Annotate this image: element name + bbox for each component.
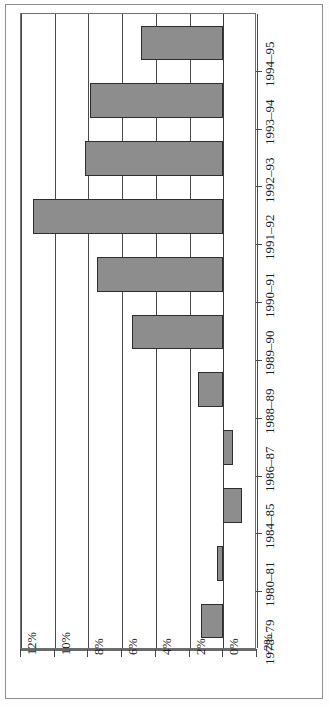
gridline-12pct — [21, 14, 22, 648]
gridline-10pct — [55, 14, 56, 648]
value-label-6pct: 6% — [126, 595, 140, 655]
bar-1980-81 — [217, 546, 224, 581]
gridline-neg2pct — [257, 14, 258, 648]
value-tick-6pct — [121, 649, 122, 657]
value-tick-12pct — [20, 649, 21, 657]
gridline-0pct — [223, 14, 224, 648]
value-tick-0pct — [222, 649, 223, 657]
bar-1989-90 — [132, 315, 223, 350]
plot-area — [20, 13, 256, 649]
value-label-0pct: 0% — [227, 595, 241, 655]
chart-page: 12%10%8%6%4%2%0%-2% 1978–791980–811984–8… — [0, 0, 330, 705]
value-label-8pct: 8% — [92, 595, 106, 655]
bar-1994-95 — [141, 26, 224, 61]
bar-1992-93 — [85, 141, 223, 176]
bar-1991-92 — [33, 199, 223, 234]
value-tick-10pct — [54, 649, 55, 657]
value-label-2pct: 2% — [194, 595, 208, 655]
bar-1993-94 — [90, 83, 223, 118]
value-label-12pct: 12% — [25, 595, 39, 655]
bar-1990-91 — [97, 257, 223, 292]
value-label-4pct: 4% — [160, 595, 174, 655]
category-label-1994-95: 1994–95 — [262, 0, 278, 87]
value-label-10pct: 10% — [59, 595, 73, 655]
bar-1984-85 — [223, 488, 242, 523]
value-tick-4pct — [155, 649, 156, 657]
value-tick-neg2pct — [256, 649, 257, 657]
value-tick-8pct — [87, 649, 88, 657]
value-tick-2pct — [189, 649, 190, 657]
bar-1988-89 — [198, 372, 223, 407]
bar-1986-87 — [223, 430, 233, 465]
